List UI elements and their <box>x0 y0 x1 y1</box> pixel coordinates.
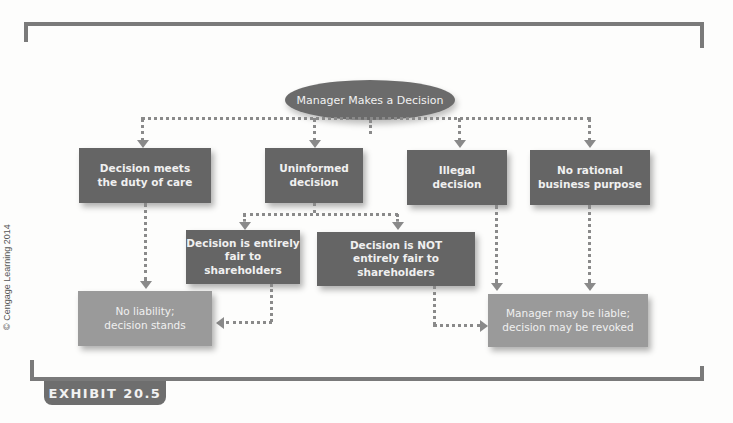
node-label: Manager may be liable; decision may be r… <box>502 307 633 334</box>
arrow-down-icon <box>454 140 466 148</box>
arrow-down-icon <box>137 140 149 148</box>
root-node: Manager Makes a Decision <box>285 80 455 120</box>
outcome-no-liability: No liability; decision stands <box>78 291 212 346</box>
connector <box>588 118 591 142</box>
copyright-text: © Cengage Learning 2014 <box>2 224 12 330</box>
arrow-down-icon <box>584 283 596 291</box>
node-label: Illegal decision <box>433 164 482 191</box>
node-entirely-fair: Decision is entirely fair to shareholder… <box>186 230 300 284</box>
node-uninformed-decision: Uninformed decision <box>265 148 363 203</box>
node-illegal-decision: Illegal decision <box>407 150 507 205</box>
connector <box>588 205 591 283</box>
frame-top-border <box>24 22 704 26</box>
node-label: Decision meets the duty of care <box>98 162 193 189</box>
root-label: Manager Makes a Decision <box>297 94 444 107</box>
node-not-entirely-fair: Decision is NOT entirely fair to shareho… <box>317 232 475 286</box>
connector <box>369 120 372 134</box>
connector <box>141 118 144 142</box>
connector <box>433 324 481 327</box>
connector <box>495 205 498 283</box>
arrow-down-icon <box>392 222 404 230</box>
node-label: Uninformed decision <box>279 162 349 189</box>
node-label: No liability; decision stands <box>104 305 185 332</box>
arrow-right-icon <box>480 320 488 332</box>
connector <box>141 117 591 120</box>
connector <box>243 213 398 216</box>
connector <box>313 118 316 142</box>
outcome-manager-liable: Manager may be liable; decision may be r… <box>488 294 648 347</box>
connector <box>144 203 147 281</box>
arrow-down-icon <box>140 281 152 289</box>
connector <box>226 321 272 324</box>
node-duty-of-care: Decision meets the duty of care <box>79 148 211 203</box>
arrow-down-icon <box>584 140 596 148</box>
frame-corner <box>24 22 28 42</box>
connector <box>396 214 399 222</box>
node-label: Decision is NOT entirely fair to shareho… <box>317 239 475 280</box>
connector <box>433 286 436 325</box>
frame-corner <box>700 22 704 48</box>
arrow-down-icon <box>309 140 321 148</box>
arrow-down-icon <box>239 222 251 230</box>
connector <box>458 118 461 142</box>
arrow-down-icon <box>491 283 503 291</box>
node-label: Decision is entirely fair to shareholder… <box>186 237 300 278</box>
exhibit-label: EXHIBIT 20.5 <box>44 381 166 405</box>
connector <box>270 284 273 322</box>
connector <box>243 214 246 222</box>
frame-corner <box>30 360 34 381</box>
node-no-rational-purpose: No rational business purpose <box>530 150 650 205</box>
connector <box>313 203 316 213</box>
node-label: No rational business purpose <box>538 164 642 191</box>
frame-corner <box>700 366 704 381</box>
arrow-left-icon <box>216 317 224 329</box>
